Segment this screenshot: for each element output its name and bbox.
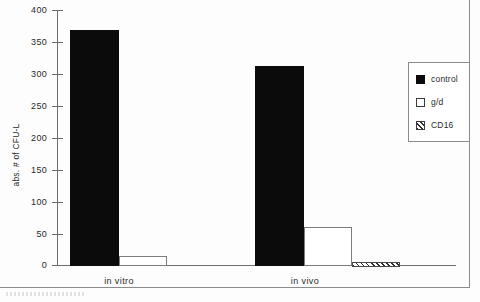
y-tick-label-400: 400 — [7, 6, 47, 15]
legend-label-gd: g/d — [431, 98, 443, 107]
bar-in-vivo-cd16 — [352, 262, 400, 267]
y-tick-mark-350 — [52, 42, 63, 43]
y-tick-mark-100 — [52, 202, 63, 203]
figure-container: 400 350 300 250 200 150 100 50 0 abs. # … — [0, 0, 480, 302]
scan-artifact — [6, 292, 84, 296]
y-tick-label-300: 300 — [7, 70, 47, 79]
y-tick-label-350: 350 — [7, 38, 47, 47]
bar-in-vitro-control — [70, 30, 119, 266]
y-tick-label-0: 0 — [7, 261, 47, 270]
x-group-label-in-vivo: in vivo — [245, 276, 365, 286]
open-white-square-icon — [416, 98, 425, 107]
y-tick-label-50: 50 — [7, 230, 47, 239]
y-tick-mark-50 — [52, 234, 63, 235]
legend: control g/d CD16 — [408, 62, 470, 142]
y-tick-mark-250 — [52, 106, 63, 107]
y-tick-mark-300 — [52, 74, 63, 75]
x-group-label-in-vitro: in vitro — [59, 276, 179, 286]
y-tick-mark-200 — [52, 138, 63, 139]
legend-label-cd16: CD16 — [431, 121, 454, 130]
hatched-square-icon — [416, 121, 425, 130]
y-tick-mark-400 — [52, 10, 63, 11]
y-tick-mark-0 — [52, 265, 63, 266]
solid-black-square-icon — [416, 75, 425, 84]
legend-label-control: control — [431, 75, 458, 84]
bar-in-vivo-control — [255, 66, 304, 266]
y-tick-mark-150 — [52, 170, 63, 171]
bar-in-vivo-gd — [304, 227, 352, 266]
bar-in-vitro-gd — [119, 256, 167, 266]
y-axis-title: abs. # of CFU-L — [11, 95, 21, 215]
